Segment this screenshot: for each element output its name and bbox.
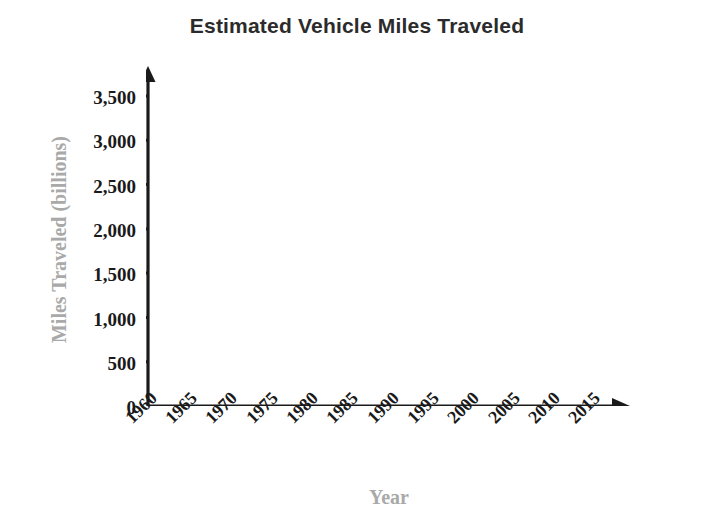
x-tick-label: 1965 (162, 389, 200, 427)
x-tick-label: 1975 (243, 389, 281, 427)
x-tick-label: 1970 (202, 389, 240, 427)
x-tick-label: 1990 (364, 389, 402, 427)
y-axis-title: Miles Traveled (billions) (48, 85, 71, 395)
x-axis-title: Year (146, 486, 632, 509)
x-tick-label: 1985 (323, 389, 361, 427)
x-tick-label: 2000 (444, 389, 482, 427)
x-tick-label: 1980 (283, 389, 321, 427)
x-tick-label: 2010 (525, 389, 563, 427)
x-tick-label: 2015 (565, 389, 603, 427)
x-tick-label: 1960 (122, 389, 160, 427)
x-tick-label: 1995 (404, 389, 442, 427)
chart-figure: Estimated Vehicle Miles Traveled 3,500 (0, 0, 714, 530)
x-tick-label: 2005 (485, 389, 523, 427)
x-axis-tick-labels: 1960 1965 1970 1975 1980 1985 1990 1995 … (0, 0, 714, 530)
